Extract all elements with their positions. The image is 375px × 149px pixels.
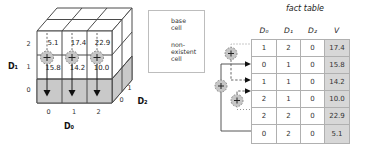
- fact-table-cell: 0: [301, 57, 325, 74]
- fact-table-header: D₁: [284, 27, 293, 35]
- d0-tick: 2: [96, 109, 100, 116]
- plus-circle-icon: [225, 48, 237, 60]
- fact-table-cell: 2: [277, 125, 301, 142]
- d1-tick: 2: [26, 41, 30, 48]
- fact-table-title: fact table: [286, 5, 324, 13]
- d1-tick: 1: [26, 64, 30, 71]
- fact-table-cell: 1: [277, 57, 301, 74]
- cell-value: 17.4: [71, 40, 87, 47]
- cell-value: 22.9: [95, 40, 111, 47]
- fact-table-header: D₀: [260, 27, 269, 35]
- d1-axis-label: D₁: [8, 63, 18, 71]
- d2-tick: 0: [119, 97, 123, 104]
- dotted-link-row5: [237, 107, 250, 110]
- d2-axis-label: D₂: [137, 98, 147, 106]
- fact-table-cell: 0: [301, 91, 325, 108]
- fact-table-cell: 1: [252, 40, 277, 57]
- fact-table-cell: 0: [252, 57, 277, 74]
- fact-table-cell: 0: [301, 125, 325, 142]
- fact-table-cell: 0: [301, 40, 325, 57]
- d0-tick: 1: [72, 109, 76, 116]
- fact-table-cell: 2: [277, 40, 301, 57]
- fact-table-value-cell: 14.2: [325, 74, 349, 91]
- fact-table-value-cell: 22.9: [325, 108, 349, 125]
- figure-data-cube-and-fact-table: 5.1 17.4 22.9 15.8 14.2 10.0 2 1 0 D₁ 0 …: [0, 0, 375, 149]
- fact-table-cell: 2: [277, 108, 301, 125]
- fact-table-header: V: [334, 27, 339, 35]
- dotted-link-row1: [231, 44, 251, 48]
- fact-table-value-cell: 5.1: [325, 125, 349, 142]
- plus-circle-icon: [215, 80, 227, 92]
- legend-nonexistent-cell-label: cell: [171, 56, 182, 62]
- fact-table-cell: 1: [277, 74, 301, 91]
- fact-table-connectors: [215, 44, 251, 131]
- cell-value: 10.0: [94, 64, 110, 71]
- fact-table-cell: 0: [301, 108, 325, 125]
- fact-table-cell: 1: [252, 74, 277, 91]
- cell-value: 14.2: [70, 64, 86, 71]
- fact-table-value-cell: 17.4: [325, 40, 349, 57]
- d1-tick: 0: [26, 87, 30, 94]
- fact-table-cell: 1: [277, 91, 301, 108]
- dashed-link-row4: [237, 91, 246, 94]
- cell-value: 15.8: [45, 64, 61, 71]
- fact-table-cell: 2: [252, 108, 277, 125]
- fact-table-cell: 0: [252, 125, 277, 142]
- fact-table-value-cell: 15.8: [325, 57, 349, 74]
- plus-circle-icon: [231, 95, 243, 107]
- fact-table-cell: 2: [252, 91, 277, 108]
- fact-table-header: D₂: [308, 27, 317, 35]
- cell-value: 5.1: [47, 40, 58, 47]
- d0-axis-label: D₀: [64, 123, 74, 131]
- legend-base-cell-label: cell: [171, 25, 182, 31]
- d2-tick: 1: [127, 85, 131, 92]
- fact-table-cell: 0: [301, 74, 325, 91]
- fact-table-value-cell: 10.0: [325, 91, 349, 108]
- d0-tick: 0: [46, 109, 50, 116]
- fact-table: 1 2 0 17.4 0 1 0 15.8 1 1 0 14.2 2 1 0 1…: [251, 39, 350, 144]
